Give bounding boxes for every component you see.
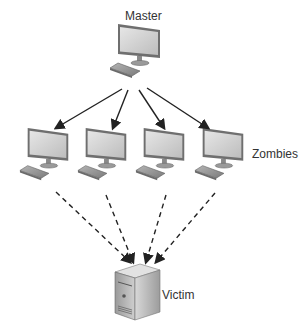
command-arrows	[56, 88, 208, 128]
zombie-computer-1	[20, 128, 68, 180]
victim-label: Victim	[162, 288, 194, 302]
zombie-computer-2	[78, 128, 126, 180]
master-computer	[110, 24, 160, 78]
attack-arrows	[56, 192, 215, 262]
ddos-diagram	[0, 0, 305, 336]
master-label: Master	[125, 9, 162, 23]
victim-server	[115, 264, 160, 320]
zombie-computer-4	[195, 128, 243, 180]
zombie-computer-3	[136, 128, 184, 180]
zombies-label: Zombies	[252, 147, 298, 161]
